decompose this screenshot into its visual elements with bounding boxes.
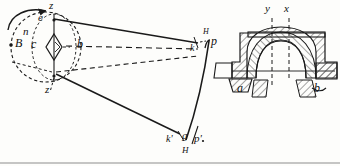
chord-left-dashed	[12, 62, 52, 72]
label-axis-y: y	[265, 3, 270, 14]
label-part-a: a	[237, 82, 243, 94]
center-point-B-dot	[9, 43, 13, 47]
tick-dash-right-of-k	[200, 41, 206, 42]
lower-connecting-rod	[56, 74, 180, 134]
label-part-b: b	[314, 82, 320, 94]
blade-curve	[186, 41, 209, 140]
label-bottom-z: z	[45, 84, 49, 95]
pivot-lower-dot	[52, 74, 55, 77]
label-top-z: z	[49, 0, 53, 11]
figure-canvas: n B c e z z b k H p k' g p' H y x a b	[0, 0, 340, 166]
label-link-b: b	[77, 38, 83, 50]
label-p: p	[211, 35, 217, 47]
reference-line-b	[66, 46, 198, 49]
label-k-prime: k'	[166, 134, 173, 144]
label-k: k	[190, 43, 194, 53]
label-hub-c: c	[31, 38, 36, 50]
label-rotation-n: n	[23, 26, 29, 37]
middle-blade-group	[178, 37, 210, 144]
label-center-B: B	[15, 37, 22, 49]
part-a-left-extension	[214, 63, 232, 78]
lower-wedge-left	[252, 80, 268, 97]
label-H-lower: H	[182, 146, 189, 155]
label-p-prime: p'	[194, 133, 202, 144]
left-kinematic-group	[8, 9, 198, 135]
point-p-prime-dot	[202, 140, 204, 142]
label-g: g	[182, 130, 188, 141]
label-axis-x: x	[284, 3, 289, 14]
housing-right-foot	[316, 63, 337, 79]
label-pivot-e: e	[38, 12, 43, 23]
lower-dashed-rod	[56, 56, 198, 72]
label-H-upper: H	[203, 28, 209, 36]
